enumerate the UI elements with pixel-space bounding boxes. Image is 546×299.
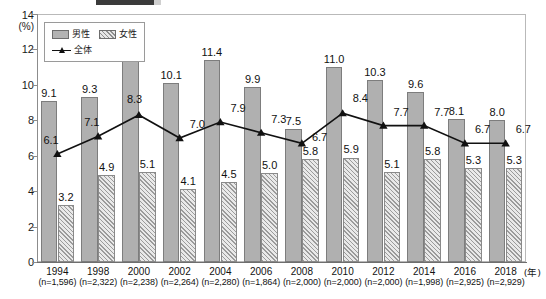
value-label-female-2012: 5.1: [381, 158, 403, 170]
y-axis-tick-6: 6: [8, 150, 34, 162]
legend-line-marker-icon: [52, 46, 71, 55]
value-label-male-1998: 9.3: [79, 83, 101, 95]
title-bar-redacted: [96, 0, 154, 5]
legend-label-female: 女性: [119, 29, 137, 39]
value-label-male-2004: 11.4: [201, 46, 223, 58]
legend-swatch-male-icon: [52, 30, 69, 39]
value-label-total-2014: 7.7: [434, 106, 449, 118]
value-label-female-2016: 5.3: [462, 154, 484, 166]
value-label-female-2018: 5.3: [503, 154, 525, 166]
chart-container: 14 (%) 121086420 9.13.29.34.911.65.110.1…: [0, 0, 546, 299]
chart-legend: 男性 女性 全体: [44, 22, 145, 62]
value-label-female-1994: 3.2: [55, 191, 77, 203]
value-label-female-1998: 4.9: [96, 161, 118, 173]
value-label-male-2012: 10.3: [364, 66, 386, 78]
value-label-male-2018: 8.0: [486, 106, 508, 118]
total-marker-2004: [216, 118, 224, 125]
legend-row-bars: 男性 女性: [52, 29, 137, 39]
value-label-female-2008: 5.8: [299, 145, 321, 157]
value-label-female-2010: 5.9: [340, 143, 362, 155]
y-axis-tick-2: 2: [8, 221, 34, 233]
value-label-total-2010: 8.4: [353, 92, 368, 104]
value-label-female-2002: 4.1: [177, 175, 199, 187]
total-marker-2010: [338, 109, 346, 116]
y-axis-tick-10: 10: [8, 79, 34, 91]
value-label-male-2014: 9.6: [405, 78, 427, 90]
value-label-total-1994: 6.1: [43, 134, 58, 146]
total-marker-2000: [135, 111, 143, 118]
title-bar-tail: [154, 0, 161, 5]
value-label-total-1998: 7.1: [84, 116, 99, 128]
y-axis-tick-8: 8: [8, 114, 34, 126]
x-axis-unit-label: (年): [524, 267, 541, 278]
value-label-male-2006: 9.9: [242, 73, 264, 85]
legend-row-line: 全体: [52, 45, 92, 55]
y-axis-tick-12: 12: [8, 43, 34, 55]
value-label-total-2012: 7.7: [393, 106, 408, 118]
value-label-total-2016: 6.7: [475, 123, 490, 135]
value-label-total-2006: 7.3: [271, 113, 286, 125]
value-label-total-2004: 7.9: [230, 102, 245, 114]
value-label-female-2004: 4.5: [218, 168, 240, 180]
value-label-total-2000: 8.3: [127, 93, 142, 105]
y-axis-unit-label: (%): [4, 21, 34, 32]
value-label-female-2006: 5.0: [259, 159, 281, 171]
legend-label-male: 男性: [72, 29, 90, 39]
value-label-total-2018: 6.7: [516, 123, 531, 135]
total-marker-1998: [94, 132, 102, 139]
legend-label-total: 全体: [74, 45, 92, 55]
x-axis-line: [37, 262, 527, 263]
value-label-male-2010: 11.0: [323, 53, 345, 65]
y-axis-max-label: 14: [8, 9, 34, 21]
value-label-male-2002: 10.1: [160, 69, 182, 81]
value-label-total-2008: 6.7: [312, 131, 327, 143]
value-label-female-2000: 5.1: [136, 158, 158, 170]
value-label-total-2002: 7.0: [190, 118, 205, 130]
legend-swatch-female-icon: [99, 30, 116, 39]
value-label-male-1994: 9.1: [38, 87, 60, 99]
x-axis-sample-size-2018: (n=2,929): [478, 277, 534, 288]
y-axis-tick-4: 4: [8, 185, 34, 197]
value-label-female-2014: 5.8: [422, 145, 444, 157]
